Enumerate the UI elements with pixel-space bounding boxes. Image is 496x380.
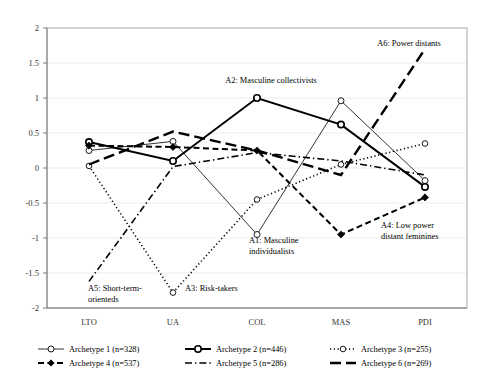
annotation-text: A2: Masculine collectivists — [225, 76, 317, 85]
legend-label: Archetype 1 (n=328) — [69, 345, 140, 354]
y-tick-label: 0.5 — [28, 128, 39, 138]
data-point-marker — [254, 95, 260, 101]
annotation-text: individualists — [249, 247, 294, 256]
annotation-text: A1: Masculine — [249, 236, 299, 245]
annotation-a2: A2: Masculine collectivists — [225, 76, 317, 85]
x-tick-label-ua: UA — [167, 317, 180, 327]
annotation-text: orienteds — [88, 295, 119, 304]
annotation-a3: A3: Risk-takers — [185, 284, 238, 293]
annotation-a4: A4: Low powerdistant feminines — [381, 221, 438, 241]
y-tick-label: 2 — [35, 23, 39, 33]
y-tick-label: 1.5 — [28, 58, 39, 68]
legend-label: Archetype 3 (n=255) — [361, 345, 432, 354]
x-tick-label-pdi: PDI — [418, 317, 432, 327]
legend-label: Archetype 6 (n=269) — [361, 359, 432, 368]
y-tick-label: 0 — [35, 163, 39, 173]
legend-marker — [340, 346, 346, 352]
data-point-marker — [338, 162, 344, 168]
data-point-marker — [170, 290, 176, 296]
y-tick-label: -1.5 — [26, 268, 39, 278]
legend-label: Archetype 4 (n=537) — [69, 359, 140, 368]
data-point-marker — [338, 98, 344, 104]
x-tick-label-col: COL — [249, 317, 266, 327]
annotation-text: A6: Power distants — [377, 39, 441, 48]
annotation-a6: A6: Power distants — [377, 39, 441, 48]
y-tick-label: -1 — [32, 233, 39, 243]
y-tick-label: 1 — [35, 93, 39, 103]
annotation-text: distant feminines — [381, 232, 438, 241]
legend-marker — [48, 346, 54, 352]
legend-label: Archetype 2 (n=446) — [216, 345, 287, 354]
x-tick-label-lto: LTO — [81, 317, 97, 327]
y-tick-label: -2 — [32, 303, 39, 313]
data-point-marker — [170, 158, 176, 164]
data-point-marker — [422, 141, 428, 147]
data-point-marker — [422, 184, 428, 190]
x-tick-label-mas: MAS — [332, 317, 351, 327]
legend-label: Archetype 5 (n=286) — [216, 359, 287, 368]
chart-figure: -2-1.5-1-0.500.511.52 LTOUACOLMASPDI A2:… — [0, 0, 496, 380]
data-point-marker — [422, 178, 428, 184]
annotation-text: A4: Low power — [381, 221, 434, 230]
annotation-a1: A1: Masculineindividualists — [249, 236, 299, 256]
y-tick-label: -0.5 — [26, 198, 39, 208]
annotation-text: A5: Short-term- — [88, 284, 142, 293]
data-point-marker — [338, 121, 344, 127]
legend-marker — [195, 346, 201, 352]
annotation-text: A3: Risk-takers — [185, 284, 238, 293]
line-chart-svg: -2-1.5-1-0.500.511.52 LTOUACOLMASPDI A2:… — [0, 0, 496, 380]
data-point-marker — [254, 197, 260, 203]
